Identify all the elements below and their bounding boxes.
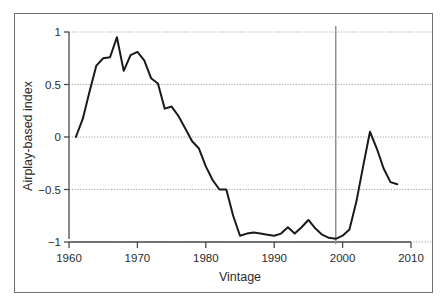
y-axis-tick-label: 1: [55, 26, 61, 38]
figure-root: 10.50−0.5−1 196019701980199020002010 Vin…: [0, 0, 445, 303]
x-axis-ticks: [69, 242, 411, 248]
y-axis-tick-label: −1: [48, 236, 61, 248]
x-axis-title: Vintage: [219, 270, 261, 284]
x-axis-tick-label: 1960: [56, 252, 82, 264]
y-axis-tick-label: 0: [55, 131, 61, 143]
x-axis-tick-label: 1990: [261, 252, 287, 264]
y-axis-tick-label: −0.5: [38, 184, 61, 196]
x-axis-tick-labels: 196019701980199020002010: [56, 252, 424, 264]
x-axis-tick-label: 2010: [398, 252, 424, 264]
y-axis-ticks: [64, 32, 69, 242]
y-axis-tick-label: 0.5: [45, 79, 61, 91]
x-axis-tick-label: 1980: [193, 252, 219, 264]
figure-frame: 10.50−0.5−1 196019701980199020002010 Vin…: [14, 13, 433, 293]
line-chart: 10.50−0.5−1 196019701980199020002010 Vin…: [15, 14, 434, 294]
x-axis-tick-label: 1970: [125, 252, 151, 264]
y-axis-title: Airplay-based index: [21, 80, 35, 191]
x-axis-tick-label: 2000: [330, 252, 356, 264]
gridlines: [69, 32, 431, 242]
data-line: [76, 37, 397, 239]
data-series-group: [76, 37, 397, 239]
y-axis-tick-labels: 10.50−0.5−1: [38, 26, 61, 248]
